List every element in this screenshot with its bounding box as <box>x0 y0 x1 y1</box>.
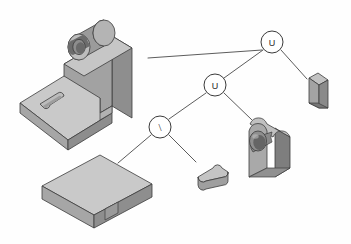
edge-root-to-mid <box>224 50 263 78</box>
boss-far-cap <box>93 20 115 46</box>
edge-diff-to-slot <box>169 135 196 162</box>
boss-bore-shadow <box>76 42 85 54</box>
operator-node-root[interactable]: U <box>261 31 283 53</box>
edge-mid-to-block <box>224 93 252 120</box>
primitive-wedge-rib <box>309 73 328 108</box>
result-solid-bracket <box>20 20 132 150</box>
edge-diff-to-plate <box>118 135 151 163</box>
operator-node-mid-label: U <box>212 81 219 91</box>
primitive-base-plate <box>42 155 152 228</box>
primitive-slot-bar <box>198 165 228 190</box>
operator-node-mid[interactable]: U <box>204 74 226 96</box>
csg-tree-canvas: U U \ <box>0 0 351 244</box>
edge-mid-to-diff <box>169 93 206 119</box>
csg-diagram-svg: U U \ <box>0 0 351 244</box>
operator-node-root-label: U <box>269 38 276 48</box>
edge-root-to-result <box>148 50 262 58</box>
primitive-round-block <box>249 118 290 177</box>
roundblock-bore-highlight <box>252 134 258 138</box>
operator-node-difference[interactable]: \ <box>149 116 171 138</box>
edge-root-to-wedge <box>281 50 307 79</box>
